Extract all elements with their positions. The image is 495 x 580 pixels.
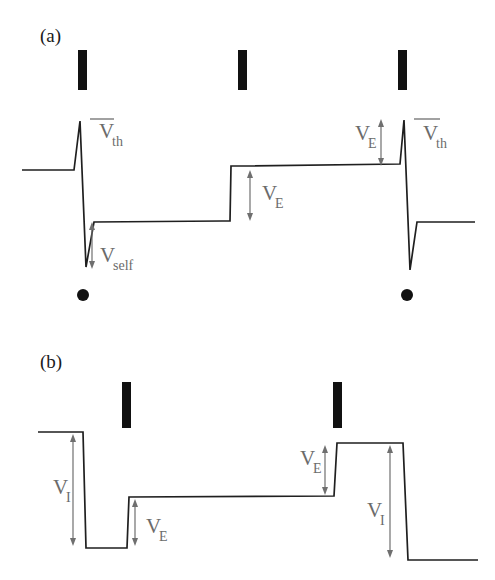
stim-bar-b-2 xyxy=(333,382,342,428)
event-dot-a-2 xyxy=(401,289,413,301)
event-dot-a-1 xyxy=(77,289,89,301)
annotation-ve-middle-subscript: E xyxy=(275,196,284,211)
panel-b: (b) V I V E xyxy=(38,351,478,560)
annotation-ve-left-b-arrowhead-down xyxy=(132,538,138,546)
annotation-ve-right-a-subscript: E xyxy=(368,136,377,151)
annotation-vi-right-subscript: I xyxy=(380,513,385,528)
annotation-ve-right-a: V E xyxy=(355,119,384,166)
stim-bar-a-3 xyxy=(398,50,407,90)
trace-panel-b xyxy=(38,432,478,560)
annotation-vself-arrowhead-down xyxy=(89,261,95,269)
stim-bar-a-1 xyxy=(78,50,87,90)
annotation-vi-left-arrowhead-down xyxy=(70,538,76,546)
annotation-ve-middle: V E xyxy=(247,170,284,221)
annotation-vi-right: V I xyxy=(367,445,393,558)
annotation-vth-left-subscript: th xyxy=(112,134,123,149)
annotation-vself-subscript: self xyxy=(113,258,134,273)
stim-bar-b-1 xyxy=(122,382,131,428)
annotation-ve-left-b-subscript: E xyxy=(159,529,168,544)
annotation-vi-right-arrowhead-up xyxy=(387,445,393,453)
annotation-ve-left-b-arrowhead-up xyxy=(132,499,138,507)
annotation-ve-middle-arrowhead-up xyxy=(247,170,253,178)
annotation-ve-left-b: V E xyxy=(132,499,168,546)
annotation-vth-left: V th xyxy=(99,119,123,149)
annotation-ve-right-b-arrowhead-up xyxy=(322,445,328,453)
trace-panel-a xyxy=(22,120,475,270)
annotation-vi-right-arrowhead-down xyxy=(387,550,393,558)
annotation-ve-right-b-arrowhead-down xyxy=(322,487,328,495)
annotation-ve-right-b: V E xyxy=(300,445,328,495)
annotation-vself: V self xyxy=(89,222,134,273)
annotation-vi-left: V I xyxy=(53,434,76,546)
figure-svg: (a) V th V self xyxy=(0,0,495,580)
panel-a: (a) V th V self xyxy=(22,25,475,301)
panel-a-label: (a) xyxy=(40,25,61,47)
annotation-ve-right-a-arrowhead-up xyxy=(378,119,384,127)
annotation-vth-right: V th xyxy=(423,121,447,151)
annotation-vi-left-subscript: I xyxy=(66,490,71,505)
annotation-vi-left-arrowhead-up xyxy=(70,434,76,442)
figure-container: (a) V th V self xyxy=(0,0,495,580)
panel-b-label: (b) xyxy=(40,351,62,373)
annotation-ve-right-b-subscript: E xyxy=(313,461,322,476)
annotation-vth-right-subscript: th xyxy=(436,136,447,151)
stim-bar-a-2 xyxy=(238,50,247,90)
annotation-ve-middle-arrowhead-down xyxy=(247,213,253,221)
